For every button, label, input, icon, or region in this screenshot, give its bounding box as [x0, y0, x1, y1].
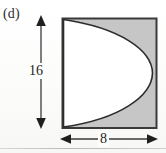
arrowhead-right-icon — [147, 134, 158, 144]
part-label: (d) — [3, 7, 20, 21]
geometry-figure-d: (d) 16 8 — [0, 0, 166, 153]
arrowhead-left-icon — [60, 134, 71, 144]
arrowhead-down-icon — [36, 118, 46, 129]
arrowhead-up-icon — [36, 15, 46, 26]
width-dimension-arrow — [60, 134, 158, 144]
figure-drawing — [0, 0, 166, 153]
height-dimension-label: 16 — [28, 63, 44, 79]
width-dimension-label: 8 — [98, 131, 109, 147]
page-rule-divider — [0, 148, 166, 149]
